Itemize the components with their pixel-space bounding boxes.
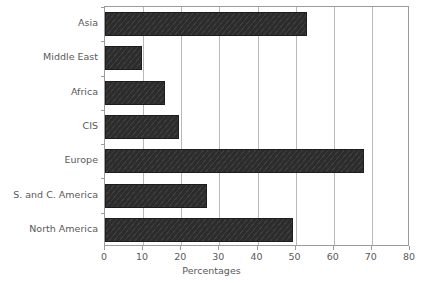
x-tick-mark-40 (257, 246, 258, 250)
x-tick-label-0: 0 (89, 251, 119, 262)
x-tick-label-40: 40 (242, 251, 272, 262)
x-tick-mark-70 (371, 246, 372, 250)
y-axis-labels: AsiaMiddle EastAfricaCISEuropeS. and C. … (0, 0, 423, 283)
x-tick-label-60: 60 (318, 251, 348, 262)
x-tick-label-80: 80 (394, 251, 423, 262)
y-axis-label-middle-east: Middle East (0, 45, 98, 69)
y-axis-label-asia: Asia (0, 11, 98, 35)
y-axis-label-cis: CIS (0, 114, 98, 138)
x-tick-label-20: 20 (165, 251, 195, 262)
x-tick-label-70: 70 (356, 251, 386, 262)
x-tick-mark-50 (295, 246, 296, 250)
x-tick-mark-60 (333, 246, 334, 250)
x-axis-title: Percentages (0, 265, 423, 276)
x-tick-label-50: 50 (280, 251, 310, 262)
y-axis-label-europe: Europe (0, 148, 98, 172)
x-tick-mark-80 (409, 246, 410, 250)
x-tick-label-10: 10 (127, 251, 157, 262)
bar-chart: AsiaMiddle EastAfricaCISEuropeS. and C. … (0, 0, 423, 283)
x-tick-label-30: 30 (203, 251, 233, 262)
x-tick-mark-30 (218, 246, 219, 250)
x-tick-mark-0 (104, 246, 105, 250)
x-tick-mark-10 (142, 246, 143, 250)
y-axis-label-africa: Africa (0, 80, 98, 104)
y-axis-label-north-america: North America (0, 217, 98, 241)
x-tick-mark-20 (180, 246, 181, 250)
y-axis-label-s-and-c-america: S. and C. America (0, 183, 98, 207)
